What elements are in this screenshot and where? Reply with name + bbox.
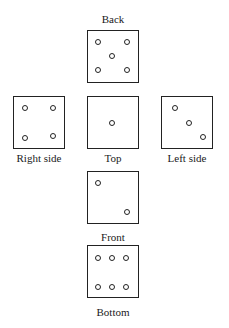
pip-icon bbox=[123, 255, 129, 261]
pip-icon bbox=[200, 134, 206, 140]
pip-icon bbox=[95, 67, 101, 73]
label-bottom: Bottom bbox=[73, 306, 153, 318]
pip-icon bbox=[95, 39, 101, 45]
pip-icon bbox=[124, 209, 130, 215]
pip-icon bbox=[22, 135, 28, 141]
pip-icon bbox=[50, 133, 56, 139]
label-top: Top bbox=[73, 152, 153, 164]
pip-icon bbox=[95, 255, 101, 261]
pip-icon bbox=[109, 53, 115, 59]
face-back bbox=[87, 30, 139, 83]
label-back: Back bbox=[73, 13, 153, 25]
face-left-side bbox=[161, 96, 213, 149]
pip-icon bbox=[172, 105, 178, 111]
label-right-side: Right side bbox=[0, 152, 79, 164]
pip-icon bbox=[109, 120, 115, 126]
pip-icon bbox=[22, 105, 28, 111]
pip-icon bbox=[95, 180, 101, 186]
face-bottom bbox=[87, 245, 139, 298]
label-left-side: Left side bbox=[147, 152, 227, 164]
face-top bbox=[87, 96, 139, 149]
pip-icon bbox=[123, 284, 129, 290]
pip-icon bbox=[109, 284, 115, 290]
pip-icon bbox=[124, 39, 130, 45]
pip-icon bbox=[124, 67, 130, 73]
pip-icon bbox=[186, 120, 192, 126]
label-front: Front bbox=[73, 231, 153, 243]
pip-icon bbox=[50, 105, 56, 111]
face-front bbox=[87, 171, 139, 224]
pip-icon bbox=[109, 255, 115, 261]
face-right-side bbox=[13, 96, 65, 149]
pip-icon bbox=[95, 284, 101, 290]
